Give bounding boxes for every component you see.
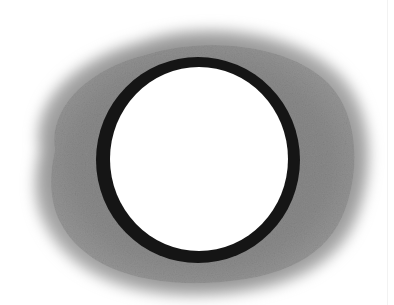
ring-drawing — [0, 0, 394, 305]
white-center — [110, 67, 288, 251]
drawing-canvas — [0, 0, 394, 305]
scan-edge-line — [387, 0, 388, 305]
